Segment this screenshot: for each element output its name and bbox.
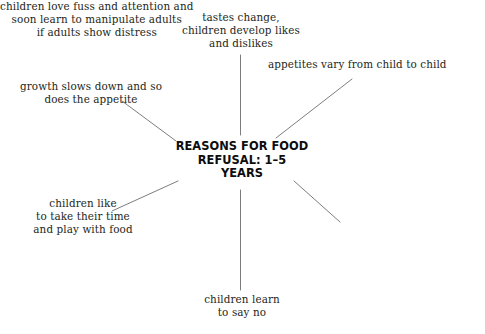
connector-children-love-fuss <box>294 181 340 222</box>
branch-label-children-learn: children learn to say no <box>178 293 306 319</box>
branch-label-children-love-fuss: children love fuss and attention and soo… <box>0 0 193 40</box>
connector-growth-slows <box>122 101 176 141</box>
diagram-canvas: tastes change, children develop likes an… <box>0 0 485 334</box>
center-node-title: REASONS FOR FOOD REFUSAL: 1–5 YEARS <box>172 140 312 181</box>
branch-label-appetites-vary: appetites vary from child to child <box>268 58 462 71</box>
branch-label-growth-slows: growth slows down and so does the appeti… <box>6 80 176 106</box>
connector-appetites-vary <box>276 79 352 138</box>
branch-label-children-like: children like to take their time and pla… <box>8 197 158 237</box>
